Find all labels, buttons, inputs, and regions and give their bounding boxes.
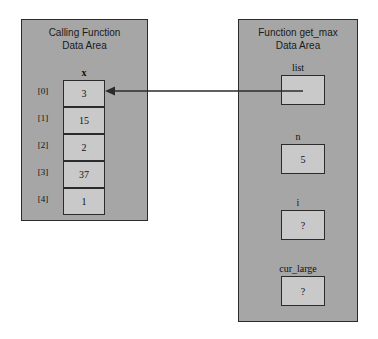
array-index-1: [1] — [28, 113, 58, 123]
array-index-4: [4] — [28, 194, 58, 204]
variable-label-list: list — [238, 62, 358, 73]
array-index-0: [0] — [28, 86, 58, 96]
variable-label-i: i — [238, 197, 358, 208]
array-cell-1: 15 — [63, 107, 105, 134]
diagram-canvas: Calling Function Data Area x [0] 3 [1] 1… — [0, 0, 378, 339]
array-cell-2: 2 — [63, 134, 105, 161]
array-index-2: [2] — [28, 140, 58, 150]
get-max-panel-title: Function get_max Data Area — [239, 27, 357, 52]
array-index-3: [3] — [28, 167, 58, 177]
variable-box-n: 5 — [281, 144, 325, 174]
array-cell-0: 3 — [63, 80, 105, 107]
array-cell-4: 1 — [63, 188, 105, 215]
variable-box-list — [281, 75, 325, 105]
variable-label-cur-large: cur_large — [238, 263, 358, 274]
calling-function-panel-title: Calling Function Data Area — [22, 27, 147, 52]
array-name-label: x — [63, 67, 105, 78]
variable-box-i: ? — [281, 210, 325, 240]
variable-box-cur-large: ? — [281, 276, 325, 306]
array-cell-3: 37 — [63, 161, 105, 188]
variable-label-n: n — [238, 131, 358, 142]
